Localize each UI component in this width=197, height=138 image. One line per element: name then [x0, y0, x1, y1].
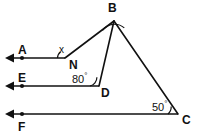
- label-point-b: B: [108, 2, 117, 14]
- geometry-diagram: A E F B N D C x 80° 50°: [0, 0, 197, 138]
- label-point-d: D: [101, 87, 110, 99]
- label-point-c: C: [182, 114, 191, 126]
- ray-f-point-dot: [20, 112, 24, 116]
- angle-arc-at-c: [168, 106, 171, 114]
- label-angle-x: x: [59, 45, 64, 55]
- degree-symbol-icon: °: [164, 99, 167, 108]
- geometry-canvas: [0, 0, 197, 138]
- angle-arc-at-d: [90, 77, 97, 86]
- label-ray-f: F: [18, 121, 25, 133]
- label-angle-80-value: 80: [72, 73, 84, 85]
- label-point-n: N: [69, 59, 78, 71]
- label-angle-50: 50°: [152, 100, 167, 113]
- ray-a: [5, 54, 65, 63]
- label-ray-a: A: [18, 44, 27, 56]
- label-ray-e: E: [18, 72, 26, 84]
- label-angle-50-value: 50: [152, 101, 164, 113]
- segment-bc: [114, 21, 178, 114]
- label-angle-80: 80°: [72, 72, 87, 85]
- degree-symbol-icon: °: [84, 71, 87, 80]
